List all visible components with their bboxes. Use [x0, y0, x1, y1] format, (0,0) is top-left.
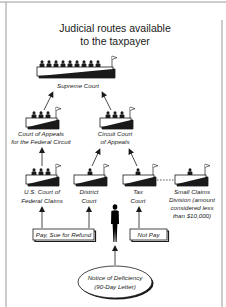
federal-claims-node: U.S. Court of Federal Claims	[21, 164, 63, 204]
title-line-2: to the taxpayer	[80, 35, 150, 47]
arrow-fed-circuit-to-supreme	[44, 94, 52, 110]
pay-sue-for-refund-box: Pay, Sue for Refund	[33, 229, 96, 242]
arrow-district-to-circuit	[92, 151, 99, 166]
federal-circuit-label-1: Court of Appeals	[18, 130, 64, 137]
court-bench-icon	[100, 111, 133, 129]
court-bench-icon	[37, 60, 115, 78]
small-claims-label-4: than $10,000)	[173, 212, 211, 219]
circuit-court-node: Circuit Court of Appeals	[98, 107, 135, 145]
federal-circuit-node: Court of Appeals for the Federal Circuit	[11, 107, 71, 145]
supreme-court-node: Supreme Court	[37, 56, 117, 89]
tax-court-label-1: Tax	[133, 188, 144, 195]
notice-label-1: Notice of Deficiency	[88, 274, 144, 281]
tax-court-label-2: Court	[130, 197, 145, 204]
court-bench-icon	[123, 168, 156, 186]
federal-claims-label-1: U.S. Court of	[24, 188, 61, 195]
small-claims-label-2: Division (amount	[169, 196, 215, 203]
small-claims-label-1: Small Claims	[174, 188, 210, 195]
flag-icon	[153, 164, 158, 175]
taxpayer-silhouette-icon	[111, 204, 119, 242]
arrow-tax-to-circuit	[130, 151, 137, 166]
arrow-circuit-to-supreme	[103, 94, 111, 110]
flag-icon	[56, 164, 61, 175]
circuit-court-label-2: of Appeals	[100, 138, 129, 145]
federal-claims-label-2: Federal Claims	[21, 197, 63, 204]
flag-icon	[112, 56, 117, 67]
flag-icon	[104, 164, 109, 175]
small-claims-node: Small Claims Division (amount considered…	[169, 164, 215, 219]
district-court-label-2: Court	[81, 197, 96, 204]
judicial-routes-diagram: Judicial routes available to the taxpaye…	[0, 0, 226, 307]
flag-icon	[56, 107, 61, 118]
not-pay-box: Not Pay	[130, 229, 169, 242]
court-bench-icon	[74, 168, 107, 186]
flag-icon	[130, 107, 135, 118]
court-bench-icon	[26, 111, 59, 129]
district-court-node: District Court	[74, 164, 109, 204]
district-court-label-1: District	[80, 188, 99, 195]
flag-icon	[205, 164, 210, 175]
supreme-court-label: Supreme Court	[57, 82, 99, 89]
title-line-1: Judicial routes available	[59, 22, 171, 34]
court-bench-icon	[175, 168, 208, 186]
circuit-court-label-1: Circuit Court	[98, 130, 133, 137]
federal-circuit-label-2: for the Federal Circuit	[11, 138, 71, 145]
tax-court-node: Tax Court	[123, 164, 158, 204]
frame	[0, 2, 226, 307]
notice-label-2: (90-Day Letter)	[94, 283, 136, 290]
court-bench-icon	[26, 168, 59, 186]
not-pay-label: Not Pay	[137, 231, 160, 238]
notice-of-deficiency-node: Notice of Deficiency (90-Day Letter)	[78, 266, 154, 300]
small-claims-label-3: considered less	[171, 204, 214, 211]
pay-sue-for-refund-label: Pay, Sue for Refund	[36, 231, 92, 238]
